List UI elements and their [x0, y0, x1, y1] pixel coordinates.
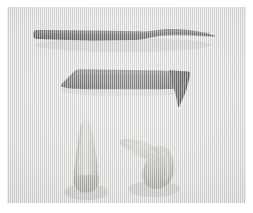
- specimen-2-hooked-dark-shaft: [57, 62, 209, 114]
- page-margin-bottom: [0, 207, 253, 213]
- specimen-4-pale-bent-cone: [112, 125, 190, 201]
- specimen-3-pale-cone: [55, 117, 117, 201]
- photo-figure: [0, 0, 253, 213]
- specimen-1-upper-dark-shaft: [31, 17, 217, 53]
- specimen-3-highlight: [85, 125, 86, 175]
- photograph-plate: [7, 7, 246, 203]
